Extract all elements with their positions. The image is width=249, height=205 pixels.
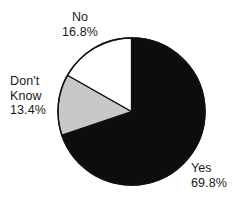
pie-label-no-text: No bbox=[57, 10, 103, 25]
pie-label-yes-text: Yes bbox=[191, 161, 247, 176]
pie-label-dont-know-text-1: Don't bbox=[10, 74, 68, 89]
pie-label-no: No 16.8% bbox=[57, 10, 103, 39]
pie-label-no-value: 16.8% bbox=[57, 25, 103, 40]
pie-label-yes-value: 69.8% bbox=[191, 176, 247, 191]
pie-label-yes: Yes 69.8% bbox=[191, 161, 247, 190]
pie-chart: No 16.8% Don't Know 13.4% Yes 69.8% bbox=[0, 0, 249, 205]
pie-label-dont-know-value: 13.4% bbox=[10, 103, 68, 118]
pie-label-dont-know: Don't Know 13.4% bbox=[10, 74, 68, 118]
pie-label-dont-know-text-2: Know bbox=[10, 89, 68, 104]
pie-slices bbox=[58, 38, 205, 185]
